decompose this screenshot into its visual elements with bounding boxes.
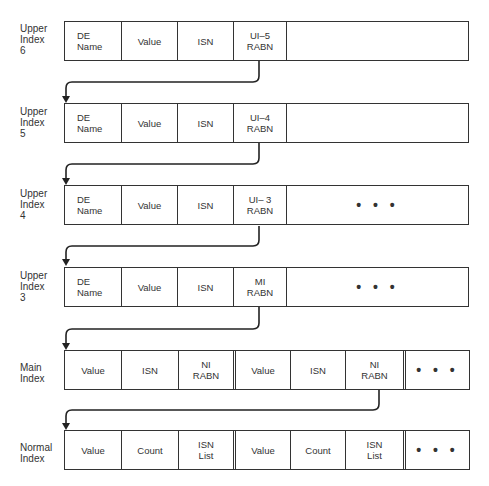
main-index-record: Value ISN NI RABN Value ISN NI RABN • • …	[64, 350, 470, 390]
upper-index-4-record: DE Name Value ISN UI– 3 RABN • • •	[64, 185, 469, 225]
rabn-cell: MI RABN	[234, 268, 287, 306]
empty-cell	[287, 104, 468, 142]
value-cell: Value	[236, 351, 291, 389]
value-cell: Value	[122, 268, 178, 306]
row-label-upper-index-4: Upper Index 4	[20, 188, 47, 221]
isn-cell: ISN	[122, 351, 179, 389]
arrow-ui6-to-ui5	[66, 61, 259, 101]
de-name-cell: DE Name	[65, 22, 122, 60]
rabn-cell: UI– 3 RABN	[234, 186, 287, 224]
isn-list-cell: ISN List	[346, 431, 406, 469]
row-label-main-index: Main Index	[20, 362, 44, 384]
value-cell: Value	[122, 186, 178, 224]
normal-index-record: Value Count ISN List Value Count ISN Lis…	[64, 430, 470, 470]
ellipsis-cell: • • •	[287, 186, 468, 224]
count-cell: Count	[122, 431, 179, 469]
empty-cell	[287, 22, 468, 60]
isn-cell: ISN	[178, 268, 234, 306]
row-label-upper-index-5: Upper Index 5	[20, 106, 47, 139]
de-name-cell: DE Name	[65, 268, 122, 306]
upper-index-3-record: DE Name Value ISN MI RABN • • •	[64, 267, 469, 307]
arrow-ui3-to-main	[66, 307, 259, 348]
rabn-cell: UI–4 RABN	[234, 104, 287, 142]
value-cell: Value	[122, 104, 178, 142]
value-cell: Value	[65, 351, 122, 389]
arrow-ui5-to-ui4	[66, 143, 259, 183]
isn-cell: ISN	[291, 351, 346, 389]
arrow-ui4-to-ui3	[66, 226, 259, 264]
ni-rabn-cell: NI RABN	[346, 351, 406, 389]
ellipsis-cell: • • •	[406, 431, 469, 469]
ni-rabn-cell: NI RABN	[179, 351, 236, 389]
isn-cell: ISN	[178, 22, 234, 60]
upper-index-6-record: DE Name Value ISN UI–5 RABN	[64, 21, 469, 61]
row-label-normal-index: Normal Index	[20, 442, 52, 464]
row-label-upper-index-3: Upper Index 3	[20, 270, 47, 303]
isn-cell: ISN	[178, 186, 234, 224]
ellipsis-cell: • • •	[406, 351, 469, 389]
ellipsis-cell: • • •	[287, 268, 468, 306]
rabn-cell: UI–5 RABN	[234, 22, 287, 60]
value-cell: Value	[236, 431, 291, 469]
value-cell: Value	[65, 431, 122, 469]
arrow-main-to-normal	[66, 390, 379, 428]
pointer-arrows	[0, 0, 489, 486]
de-name-cell: DE Name	[65, 104, 122, 142]
de-name-cell: DE Name	[65, 186, 122, 224]
isn-cell: ISN	[178, 104, 234, 142]
row-label-upper-index-6: Upper Index 6	[20, 23, 47, 56]
isn-list-cell: ISN List	[179, 431, 236, 469]
count-cell: Count	[291, 431, 346, 469]
value-cell: Value	[122, 22, 178, 60]
upper-index-5-record: DE Name Value ISN UI–4 RABN	[64, 103, 469, 143]
